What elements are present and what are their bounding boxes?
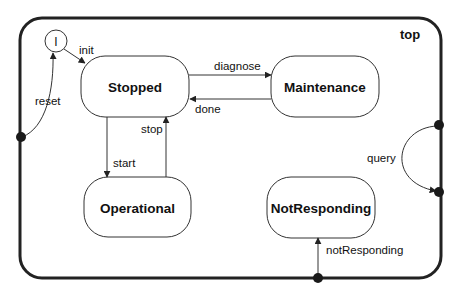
notresponding-port-dot[interactable] xyxy=(313,273,323,283)
transition-query-arrow xyxy=(402,126,437,191)
transition-stop-label: stop xyxy=(141,123,163,135)
query-target-port-dot[interactable] xyxy=(434,187,444,197)
transition-reset[interactable]: reset xyxy=(16,53,61,142)
reset-port-dot[interactable] xyxy=(16,132,26,142)
query-source-port-dot[interactable] xyxy=(434,120,444,130)
initial-state[interactable]: I xyxy=(45,30,67,52)
state-diagram: top I Stopped Maintenance Operational No… xyxy=(0,0,456,297)
state-notresponding[interactable]: NotResponding xyxy=(267,177,375,238)
transition-query-label: query xyxy=(367,152,396,164)
transition-init-label: init xyxy=(79,44,95,56)
transition-done[interactable]: done xyxy=(190,99,271,115)
top-container-frame[interactable] xyxy=(20,18,441,278)
transition-start-label: start xyxy=(113,157,136,169)
transition-start[interactable]: start xyxy=(107,117,136,177)
state-stopped-label: Stopped xyxy=(108,80,162,95)
transition-done-label: done xyxy=(195,103,221,115)
transition-diagnose[interactable]: diagnose xyxy=(189,60,271,75)
transition-reset-label: reset xyxy=(35,95,61,107)
state-maintenance[interactable]: Maintenance xyxy=(271,56,379,117)
transition-query[interactable]: query xyxy=(367,120,444,197)
state-maintenance-label: Maintenance xyxy=(284,80,366,95)
state-stopped[interactable]: Stopped xyxy=(81,56,189,117)
top-container-label: top xyxy=(400,27,420,42)
transition-stop[interactable]: stop xyxy=(141,117,166,177)
state-operational-label: Operational xyxy=(100,201,175,216)
initial-state-label: I xyxy=(54,35,57,49)
state-operational[interactable]: Operational xyxy=(84,177,191,237)
transition-notresponding-label: notResponding xyxy=(326,244,403,256)
state-notresponding-label: NotResponding xyxy=(271,201,372,216)
transition-diagnose-label: diagnose xyxy=(214,60,261,72)
transition-notresponding[interactable]: notResponding xyxy=(313,238,403,283)
transition-init[interactable]: init xyxy=(64,44,95,63)
